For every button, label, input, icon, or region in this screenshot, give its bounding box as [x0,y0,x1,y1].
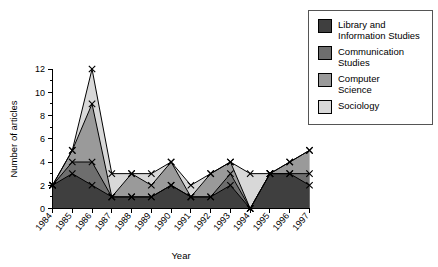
y-tick-label: 4 [40,157,45,167]
x-tick-label: 1996 [271,211,292,233]
x-tick-label: 1985 [53,211,74,233]
legend-label-3-line2: Science [338,84,372,95]
x-tick-label: 1991 [172,211,193,233]
y-axis-tick-labels: 024681012 [35,64,45,214]
y-tick-label: 10 [35,88,45,98]
x-tick-label: 1986 [73,211,94,233]
stacked-areas [53,69,310,209]
legend-swatch-2 [318,46,331,59]
x-tick-label: 1994 [231,211,252,233]
x-tick-label: 1995 [251,211,272,233]
y-axis-title: Number of articles [8,100,19,177]
legend-label-4-line1: Sociology [338,100,379,111]
legend-label-1-line1: Library and [338,19,386,30]
legend-swatch-4 [318,100,331,113]
legend-label-2-line1: Communication [338,46,404,57]
x-axis-title: Year [171,250,190,261]
x-tick-label: 1993 [211,211,232,233]
y-tick-label: 2 [40,181,45,191]
chart-container: 024681012 198419851986198719881989199019… [0,0,438,267]
x-tick-label: 1984 [33,211,54,233]
legend-label-3-line1: Computer [338,73,380,84]
x-tick-label: 1990 [152,211,173,233]
legend-swatch-1 [318,19,331,32]
chart-legend: Library andInformation StudiesCommunicat… [309,11,433,125]
legend-label-2-line2: Studies [338,57,370,68]
y-tick-label: 12 [35,64,45,74]
x-tick-label: 1987 [93,211,114,233]
x-axis-tick-labels: 1984198519861987198819891990199119921993… [33,211,311,233]
x-tick-label: 1992 [192,211,213,233]
x-tick-label: 1997 [290,211,311,233]
y-tick-label: 6 [40,134,45,144]
x-axis-ticks [53,209,310,214]
x-tick-label: 1988 [113,211,134,233]
legend-label-1-line2: Information Studies [338,30,420,41]
area-chart: 024681012 198419851986198719881989199019… [0,0,438,267]
x-tick-label: 1989 [132,211,153,233]
y-tick-label: 8 [40,111,45,121]
legend-swatch-3 [318,73,331,86]
